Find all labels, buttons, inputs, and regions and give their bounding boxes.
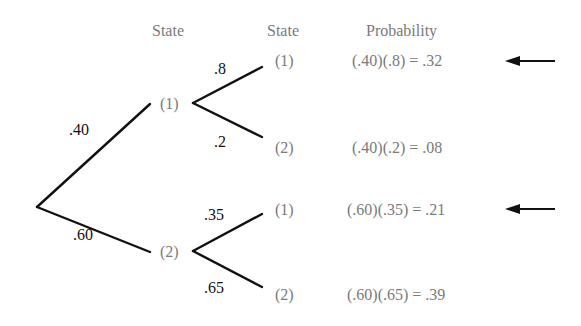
probability-tree-diagram: State State Probability .40 .60 (1) (2) … (0, 0, 581, 326)
root-branches: .40 .60 (1) (2) (37, 95, 179, 261)
branch-label-1-2: .2 (214, 133, 226, 150)
node-2-branches: .35 .65 (193, 206, 262, 296)
outcome-probability-3: (.60)(.35) = .21 (347, 201, 445, 219)
left-arrow-icon (505, 204, 555, 214)
outcome-probability-4: (.60)(.65) = .39 (347, 286, 445, 304)
branch-label-root-2: .60 (73, 226, 93, 243)
branch-line-root-to-1 (37, 104, 150, 207)
branch-line-root-to-2 (37, 207, 150, 252)
branch-label-2-1: .35 (204, 206, 224, 223)
node-state-2: (2) (160, 243, 179, 261)
branch-label-1-1: .8 (214, 60, 226, 77)
branch-label-2-2: .65 (204, 279, 224, 296)
outcome-state-3: (1) (275, 201, 294, 219)
branch-line-1-to-1 (193, 67, 262, 103)
node-state-1: (1) (160, 95, 179, 113)
branch-label-root-1: .40 (69, 121, 89, 138)
outcome-state-1: (1) (275, 52, 294, 70)
node-1-branches: .8 .2 (193, 60, 262, 150)
left-arrow-icon (505, 56, 555, 66)
header-stage2-state: State (267, 22, 299, 39)
header-stage1-state: State (152, 22, 184, 39)
header-probability: Probability (366, 22, 437, 40)
outcome-state-4: (2) (275, 286, 294, 304)
outcome-state-2: (2) (275, 139, 294, 157)
outcome-probability-1: (.40)(.8) = .32 (352, 52, 442, 70)
branch-line-1-to-2 (193, 103, 262, 137)
outcome-probability-2: (.40)(.2) = .08 (352, 139, 442, 157)
